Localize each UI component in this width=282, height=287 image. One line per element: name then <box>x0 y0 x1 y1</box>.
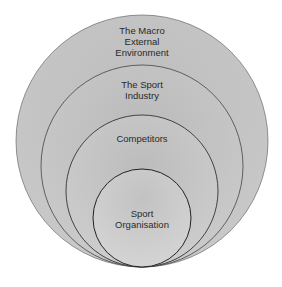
label-line: Organisation <box>82 219 202 230</box>
label-line: Competitors <box>82 133 202 144</box>
label-line: Industry <box>82 90 202 101</box>
label-sport-industry: The Sport Industry <box>82 79 202 101</box>
label-line: The Macro <box>82 25 202 36</box>
label-sport-organisation: Sport Organisation <box>82 208 202 230</box>
label-competitors: Competitors <box>82 133 202 144</box>
label-macro-environment: The Macro External Environment <box>82 25 202 58</box>
label-line: The Sport <box>82 79 202 90</box>
label-line: Sport <box>82 208 202 219</box>
label-line: Environment <box>82 47 202 58</box>
label-line: External <box>82 36 202 47</box>
